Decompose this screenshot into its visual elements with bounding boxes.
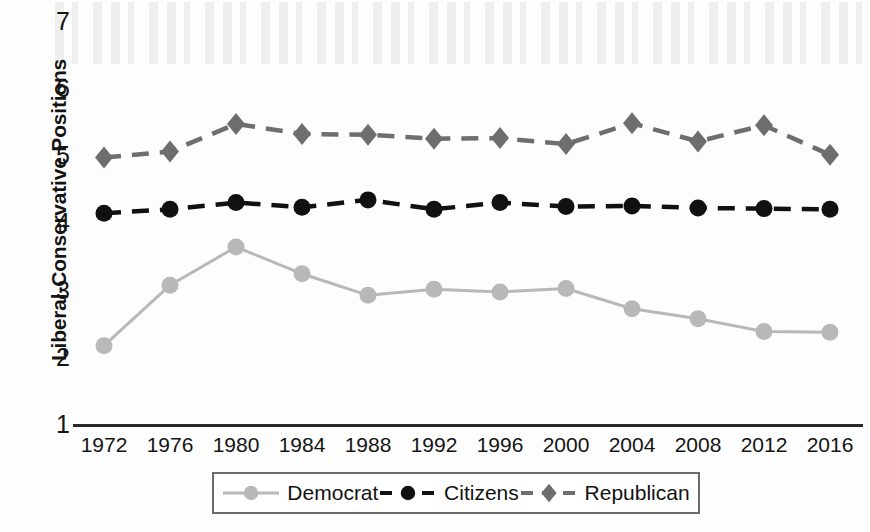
data-point-citizens-2008 — [690, 199, 707, 216]
data-point-republican-1996 — [491, 127, 509, 149]
data-point-republican-1980 — [227, 113, 245, 135]
legend-swatch-citizens-icon — [379, 483, 437, 503]
series-democrat — [96, 238, 839, 354]
data-point-republican-2012 — [755, 114, 773, 136]
data-point-citizens-2000 — [558, 198, 575, 215]
legend-label-democrat: Democrat — [287, 481, 378, 505]
data-point-citizens-1976 — [162, 201, 179, 218]
data-point-citizens-1996 — [492, 194, 509, 211]
legend-label-republican: Republican — [585, 481, 690, 505]
data-point-democrat-1980 — [228, 238, 245, 255]
data-point-republican-2000 — [557, 133, 575, 155]
data-point-citizens-1972 — [96, 205, 113, 222]
series-republican — [95, 112, 839, 168]
data-point-republican-2016 — [821, 144, 839, 166]
plot-series-layer — [0, 0, 870, 532]
data-point-democrat-2012 — [756, 323, 773, 340]
chart-page: Liberal-Conservative Positions 1234567 1… — [0, 0, 870, 532]
data-point-democrat-1996 — [492, 283, 509, 300]
data-point-democrat-2008 — [690, 310, 707, 327]
data-point-democrat-1992 — [426, 281, 443, 298]
data-point-democrat-1988 — [360, 287, 377, 304]
legend-label-citizens: Citizens — [444, 481, 519, 505]
data-point-citizens-1988 — [360, 191, 377, 208]
legend-item-democrat: Democrat — [222, 481, 378, 505]
data-point-citizens-2004 — [624, 197, 641, 214]
data-point-democrat-1976 — [162, 277, 179, 294]
data-point-republican-1992 — [425, 128, 443, 150]
data-point-citizens-1992 — [426, 201, 443, 218]
legend-item-republican: Republican — [520, 481, 690, 505]
data-point-republican-1972 — [95, 147, 113, 169]
line-chart: Liberal-Conservative Positions 1234567 1… — [0, 0, 870, 532]
data-point-republican-1988 — [359, 124, 377, 146]
legend-swatch-democrat-icon — [222, 483, 280, 503]
legend-swatch-republican-icon — [520, 483, 578, 503]
legend-item-citizens: Citizens — [379, 481, 519, 505]
chart-legend: DemocratCitizensRepublican — [212, 472, 700, 514]
data-point-republican-2008 — [689, 130, 707, 152]
series-citizens — [96, 191, 839, 221]
data-point-republican-1976 — [161, 140, 179, 162]
data-point-citizens-1980 — [228, 194, 245, 211]
data-point-democrat-1972 — [96, 337, 113, 354]
data-point-democrat-1984 — [294, 265, 311, 282]
data-point-citizens-2012 — [756, 200, 773, 217]
data-point-republican-1984 — [293, 123, 311, 145]
data-point-citizens-2016 — [822, 201, 839, 218]
data-point-republican-2004 — [623, 112, 641, 134]
data-point-democrat-2016 — [822, 324, 839, 341]
data-point-democrat-2000 — [558, 280, 575, 297]
data-point-citizens-1984 — [294, 199, 311, 216]
data-point-democrat-2004 — [624, 300, 641, 317]
